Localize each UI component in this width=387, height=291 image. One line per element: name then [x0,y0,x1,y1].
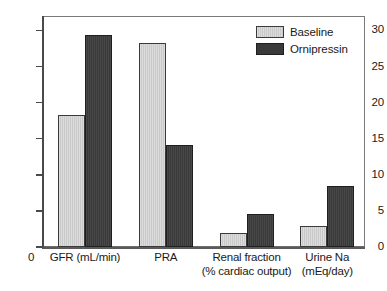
y-axis-tick-label: 25 [352,61,384,73]
y-axis-line [42,16,44,247]
legend-label-baseline: Baseline [290,26,333,38]
y-axis-tick-label: 10 [352,169,384,181]
legend-item-ornipressin: Ornipressin [256,42,348,56]
y-axis-tick [36,66,43,67]
y-axis-tick [36,102,43,103]
legend: Baseline Ornipressin [256,25,348,59]
y-axis-tick [36,138,43,139]
y-axis-tick-label: 5 [352,205,384,217]
y-axis-tick [36,174,43,175]
baseline-swatch-icon [256,26,284,38]
ornipressin-swatch-icon [256,43,284,55]
x-axis-line [42,247,365,249]
y-axis-tick [36,210,43,211]
y-axis-tick-label: 15 [352,133,384,145]
y-axis-tick [36,246,43,247]
legend-label-ornipressin: Ornipressin [290,43,348,55]
y-axis-tick-label: 30 [352,24,384,36]
legend-item-baseline: Baseline [256,25,348,39]
y-axis-tick-label: 20 [352,97,384,109]
x-axis-group-label: Urine Na (mEq/day) [267,251,387,278]
y-axis-tick [36,30,43,31]
